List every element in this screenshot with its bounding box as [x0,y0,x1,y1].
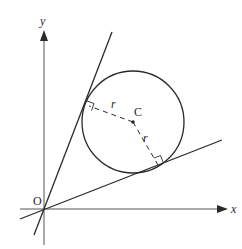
shallow-tangent-line [20,140,222,219]
right-angle-marker-upper-icon [87,101,94,111]
geometry-figure: y x O C r r [0,0,242,249]
x-axis-label: x [230,202,237,216]
right-angle-marker-lower-icon [154,156,163,163]
diagram-canvas: y x O C r r [0,0,242,249]
centre-label: C [134,105,142,119]
y-axis-arrow-icon [40,30,48,41]
steep-tangent-line [34,32,112,235]
radius-upper-label: r [111,97,116,111]
origin-label: O [33,194,42,208]
y-axis-label: y [39,14,46,28]
x-axis-arrow-icon [217,205,228,213]
radius-lower-label: r [143,131,148,145]
